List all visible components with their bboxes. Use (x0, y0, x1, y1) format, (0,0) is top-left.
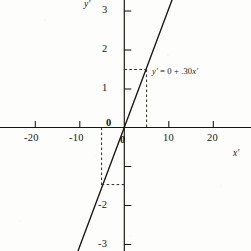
y-axis-title: y' (84, 0, 90, 9)
x-tick-label--20: -20 (24, 132, 39, 143)
x-tick-label-10: 10 (163, 132, 174, 143)
y-tick-label-1: 1 (102, 82, 108, 93)
x-tick-label--10: -10 (69, 132, 84, 143)
equation-coefficient: .30 (181, 66, 192, 76)
y-tick-label-3: 3 (102, 4, 108, 15)
x-tick-label-0: 0 (120, 134, 126, 145)
regression-line-chart: y' x' 3 2 1 0 -2 -3 -20 -10 0 10 20 y' =… (0, 0, 251, 251)
y-tick-label-2: 2 (102, 43, 108, 54)
equation-lhs: y' (152, 66, 158, 76)
equation-plus: + (174, 66, 179, 76)
y-tick-label--2: -2 (98, 199, 107, 210)
equation-equals: = (160, 66, 165, 76)
x-axis-title: x' (233, 148, 239, 158)
equation-intercept: 0 (167, 66, 171, 76)
x-tick-label-20: 20 (207, 132, 218, 143)
y-tick-label-0: 0 (106, 117, 112, 128)
regression-line (78, 0, 172, 251)
equation-variable: x' (192, 66, 198, 76)
chart-canvas (0, 0, 251, 251)
y-tick-label--3: -3 (98, 238, 107, 249)
equation-annotation: y' = 0 + .30x' (152, 66, 198, 76)
